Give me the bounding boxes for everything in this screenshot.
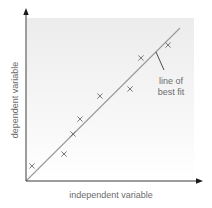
- x-axis-arrow-icon: [196, 178, 203, 183]
- annotation-label-line1: line of: [159, 76, 184, 86]
- x-axis-label: independent variable: [69, 190, 153, 200]
- y-axis-arrow-icon: [23, 8, 28, 15]
- y-axis-label: dependent variable: [10, 62, 20, 139]
- scatter-chart: line of best fit independent variable de…: [0, 0, 212, 208]
- annotation-label-line2: best fit: [158, 87, 185, 97]
